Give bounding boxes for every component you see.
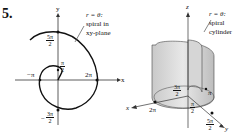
right-tick-2pi: 2π xyxy=(149,107,156,114)
right-annotation-1: r = θ: xyxy=(209,11,226,18)
point-pi-3d xyxy=(205,88,207,90)
right-tick-3pi2: 3π2 xyxy=(173,84,181,97)
x-axis-3d-arrow-icon xyxy=(131,105,137,109)
right-tick-pi: π xyxy=(208,90,212,97)
annotation-leader xyxy=(75,26,84,42)
figures-canvas xyxy=(0,0,239,139)
left-annotation-2: spiral in xyxy=(86,21,109,28)
y-axis-arrow-icon xyxy=(56,13,60,17)
cylinder-surface xyxy=(152,41,214,108)
left-x-axis-label: x xyxy=(121,77,125,84)
point-2pi-3d xyxy=(154,101,157,104)
inner-spiral-wall xyxy=(188,40,202,92)
point-5pi2 xyxy=(57,31,60,34)
right-tick-pi2: π2 xyxy=(190,101,195,114)
point-2pi xyxy=(96,79,99,82)
left-tick-2pi: 2π xyxy=(85,72,92,79)
point-neg-pi xyxy=(39,79,42,82)
right-y-axis-label: y xyxy=(225,126,228,133)
right-tick-5pi2: 5π2 xyxy=(206,118,214,131)
left-annotation-1: r = θ: xyxy=(86,12,103,19)
left-tick-5pi2: 5π2 xyxy=(46,34,54,47)
right-annotation-3: cylinder xyxy=(209,29,232,36)
left-tick-neg-pi: −π xyxy=(27,72,34,79)
right-z-axis-label: z xyxy=(186,4,189,11)
point-5pi2-3d xyxy=(211,112,214,115)
right-annotation-2: spiral xyxy=(209,20,225,27)
right-x-axis-label: x xyxy=(126,105,129,112)
point-pi2 xyxy=(57,69,59,71)
left-annotation-3: xy-plane xyxy=(86,30,111,37)
z-axis-arrow-icon xyxy=(186,12,190,17)
left-tick-neg3pi2: 3π2 xyxy=(46,111,54,124)
left-tick-neg3pi2-sign: − xyxy=(41,116,45,123)
left-tick-pi2: π2 xyxy=(60,60,65,73)
left-y-axis-label: y xyxy=(56,6,60,13)
point-neg3pi2 xyxy=(57,109,60,112)
